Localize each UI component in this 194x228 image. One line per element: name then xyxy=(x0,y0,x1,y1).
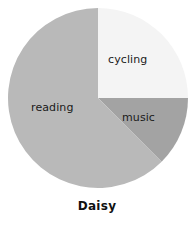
chart-title: Daisy xyxy=(0,200,194,212)
pie-slice-label-reading: reading xyxy=(31,102,73,113)
pie-slice-label-cycling: cycling xyxy=(108,54,147,65)
pie-slices xyxy=(8,8,188,188)
pie-chart-graphic xyxy=(0,0,194,228)
pie-chart: cycling music reading Daisy xyxy=(0,0,194,228)
pie-slice-label-music: music xyxy=(122,112,155,123)
